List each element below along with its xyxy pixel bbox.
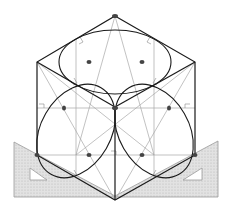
diagram-canvas <box>0 0 227 213</box>
left-set-square <box>14 142 115 197</box>
right-set-square <box>115 141 218 197</box>
construction-points <box>35 14 198 157</box>
isometric-cube-diagram <box>0 0 227 213</box>
